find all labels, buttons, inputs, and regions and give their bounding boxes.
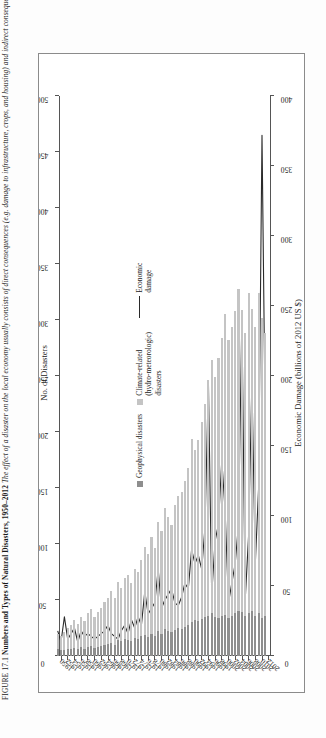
- axis-tick: [270, 515, 274, 516]
- bar-row: [87, 96, 89, 656]
- bar-segment-climate: [258, 293, 260, 613]
- axis-tick-label: 150: [38, 487, 48, 496]
- bar-segment-climate: [114, 598, 116, 645]
- bar-segment-climate: [204, 404, 206, 617]
- bar-segment-climate: [211, 360, 213, 613]
- bar-segment-geophysical: [137, 639, 139, 656]
- bar-row: [127, 96, 129, 656]
- bar-segment-geophysical: [160, 634, 162, 656]
- bar-segment-climate: [93, 617, 95, 648]
- bar-row: [214, 96, 216, 656]
- bar-row: [100, 96, 102, 656]
- bar-row: [261, 96, 263, 656]
- bar-row: [124, 96, 126, 656]
- legend-swatch-climate-icon: [137, 399, 143, 405]
- bar-segment-geophysical: [184, 627, 186, 656]
- bar-segment-climate: [60, 636, 62, 651]
- bar-segment-geophysical: [174, 630, 176, 656]
- bar-segment-climate: [244, 333, 246, 615]
- bar-segment-climate: [117, 582, 119, 640]
- bar-segment-climate: [70, 625, 72, 650]
- bar-row: [107, 96, 109, 656]
- axis-tick-label: 0: [285, 659, 289, 668]
- bar-row: [67, 96, 69, 656]
- bar-segment-climate: [194, 450, 196, 620]
- bar-segment-geophysical: [187, 625, 189, 656]
- bar-segment-climate: [107, 598, 109, 644]
- bar-row: [187, 96, 189, 656]
- bar-row: [174, 96, 176, 656]
- bar-segment-climate: [167, 517, 169, 631]
- bar-segment-geophysical: [124, 639, 126, 656]
- bar-segment-climate: [197, 440, 199, 621]
- bar-segment-geophysical: [170, 632, 172, 656]
- axis-title-disasters: No. of Disasters: [39, 54, 49, 692]
- bar-row: [181, 96, 183, 656]
- bar-segment-geophysical: [244, 616, 246, 656]
- figure-label: FIGURE 17.1: [2, 657, 10, 700]
- bar-row: [224, 96, 226, 656]
- bar-segment-geophysical: [157, 631, 159, 656]
- bar-row: [221, 96, 223, 656]
- bar-row: [130, 96, 132, 656]
- bar-segment-climate: [127, 575, 129, 640]
- bar-segment-climate: [224, 314, 226, 614]
- bar-segment-geophysical: [77, 649, 79, 656]
- bar-row: [204, 96, 206, 656]
- bar-segment-climate: [184, 481, 186, 627]
- bar-segment-climate: [144, 547, 146, 634]
- bar-segment-geophysical: [181, 629, 183, 656]
- bar-row: [241, 96, 243, 656]
- bar-row: [70, 96, 72, 656]
- bar-row: [80, 96, 82, 656]
- bar-segment-climate: [157, 522, 159, 632]
- bar-row: [191, 96, 193, 656]
- bar-row: [60, 96, 62, 656]
- bar-row: [110, 96, 112, 656]
- bar-row: [184, 96, 186, 656]
- axis-tick-label: 0: [41, 659, 45, 668]
- bar-row: [244, 96, 246, 656]
- bar-segment-climate: [221, 338, 223, 616]
- bar-segment-climate: [248, 293, 250, 613]
- axis-tick-label: 500: [38, 95, 48, 104]
- bar-segment-geophysical: [154, 636, 156, 656]
- legend-item-climate: Climate-related (hydro-meteorologic) dis…: [135, 327, 163, 405]
- axis-tick-label: 350: [38, 263, 48, 272]
- bar-row: [217, 96, 219, 656]
- bar-segment-climate: [150, 537, 152, 633]
- bar-segment-geophysical: [80, 647, 82, 656]
- legend-swatch-line-icon: [139, 296, 140, 318]
- bar-segment-geophysical: [107, 644, 109, 656]
- bar-segment-climate: [100, 608, 102, 646]
- bar-segment-geophysical: [211, 613, 213, 656]
- bar-row: [57, 96, 59, 656]
- bar-segment-climate: [207, 381, 209, 616]
- bar-segment-climate: [83, 621, 85, 649]
- bar-segment-geophysical: [234, 613, 236, 656]
- bar-segment-geophysical: [63, 650, 65, 656]
- bar-segment-geophysical: [147, 637, 149, 656]
- bar-segment-climate: [140, 560, 142, 636]
- chart-legend: Geophysical disasters Climate-related (h…: [135, 240, 163, 487]
- bar-segment-climate: [73, 620, 75, 648]
- bar-segment-geophysical: [83, 649, 85, 656]
- bar-row: [201, 96, 203, 656]
- bar-segment-climate: [170, 525, 172, 633]
- bar-segment-climate: [97, 612, 99, 647]
- axis-scale-economic-damage: 050100150200250300350400: [270, 96, 282, 656]
- bar-segment-climate: [201, 422, 203, 619]
- bar-row: [231, 96, 233, 656]
- axis-tick: [270, 375, 274, 376]
- axis-tick-label: 100: [281, 515, 292, 524]
- axis-tick-label: 200: [281, 375, 292, 384]
- bar-row: [120, 96, 122, 656]
- bar-segment-climate: [177, 496, 179, 628]
- bar-segment-climate: [160, 531, 162, 634]
- legend-label-climate: Climate-related (hydro-meteorologic) dis…: [135, 327, 163, 396]
- bar-segment-climate: [67, 628, 69, 649]
- bar-segment-climate: [130, 583, 132, 641]
- bar-segment-geophysical: [201, 619, 203, 656]
- axis-tick: [270, 95, 274, 96]
- bar-row: [251, 96, 253, 656]
